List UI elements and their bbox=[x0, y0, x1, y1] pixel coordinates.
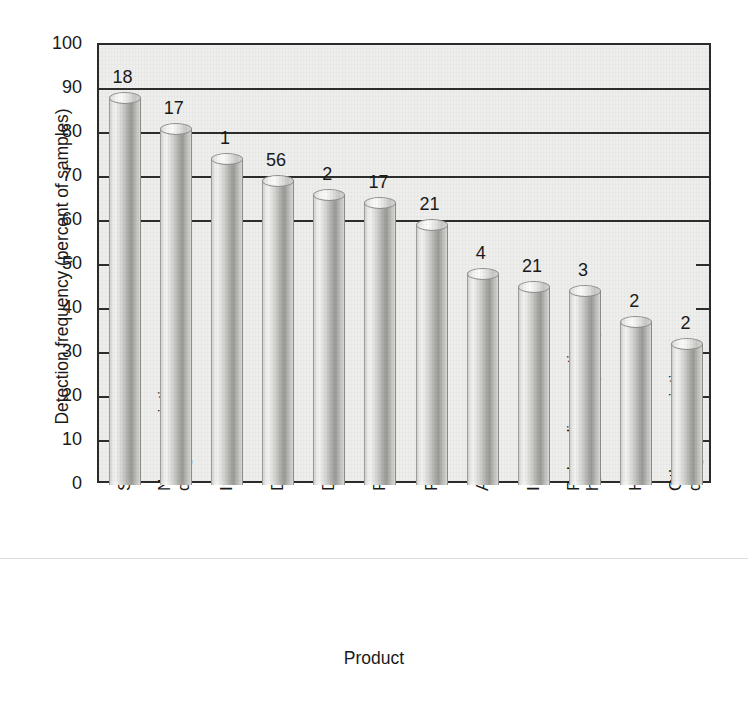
bar bbox=[671, 344, 703, 485]
bar-value-label: 2 bbox=[655, 314, 715, 332]
y-tick-label: 90 bbox=[36, 78, 82, 96]
y-tick-label: 30 bbox=[36, 342, 82, 360]
bar-value-label: 2 bbox=[604, 292, 664, 310]
axis-tick-mark bbox=[696, 308, 709, 310]
bar-value-label: 1 bbox=[195, 129, 255, 147]
y-tick-label: 20 bbox=[36, 386, 82, 404]
bar-top-cap bbox=[620, 316, 652, 328]
bar-value-label: 18 bbox=[93, 68, 153, 86]
y-tick-label: 50 bbox=[36, 254, 82, 272]
gridline bbox=[99, 88, 709, 90]
y-tick-label: 60 bbox=[36, 210, 82, 228]
bar bbox=[313, 195, 345, 485]
bar-top-cap bbox=[467, 268, 499, 280]
bar bbox=[416, 225, 448, 485]
bar-value-label: 17 bbox=[144, 99, 204, 117]
y-tick-label: 80 bbox=[36, 122, 82, 140]
bar bbox=[160, 129, 192, 485]
bar-value-label: 21 bbox=[400, 195, 460, 213]
y-tick-label: 70 bbox=[36, 166, 82, 184]
bar-top-cap bbox=[671, 338, 703, 350]
bar bbox=[518, 287, 550, 485]
bar-top-cap bbox=[211, 153, 243, 165]
page-scan-artifact bbox=[0, 558, 748, 559]
bar bbox=[262, 181, 294, 485]
bar bbox=[211, 159, 243, 485]
bar bbox=[620, 322, 652, 485]
y-tick-label: 10 bbox=[36, 430, 82, 448]
bar bbox=[569, 291, 601, 485]
bar-top-cap bbox=[109, 92, 141, 104]
bar-top-cap bbox=[262, 175, 294, 187]
bar-value-label: 3 bbox=[553, 261, 613, 279]
bar-top-cap bbox=[160, 123, 192, 135]
bar-value-label: 17 bbox=[348, 173, 408, 191]
bar-top-cap bbox=[569, 285, 601, 297]
x-axis-title: Product bbox=[0, 648, 748, 669]
y-tick-label: 100 bbox=[36, 34, 82, 52]
bar-top-cap bbox=[416, 219, 448, 231]
bar-top-cap bbox=[518, 281, 550, 293]
bar bbox=[109, 98, 141, 485]
chart-figure: Detection frequency (percent of samples)… bbox=[0, 0, 748, 724]
y-tick-label: 40 bbox=[36, 298, 82, 316]
bar-top-cap bbox=[364, 197, 396, 209]
bar bbox=[467, 274, 499, 485]
bar bbox=[364, 203, 396, 485]
y-tick-label: 0 bbox=[36, 474, 82, 492]
bar-top-cap bbox=[313, 189, 345, 201]
axis-tick-mark bbox=[696, 264, 709, 266]
